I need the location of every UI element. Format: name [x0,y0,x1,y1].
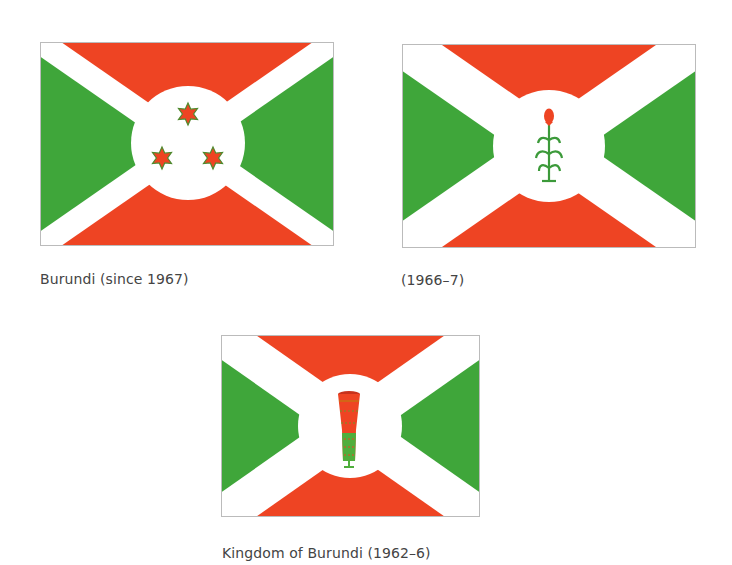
flag-burundi-1966 [402,44,696,248]
flag-caption: (1966–7) [401,271,464,289]
flag-kingdom-of-burundi-image [221,335,480,517]
flag-burundi-since-1967 [40,42,334,246]
flag-caption: Burundi (since 1967) [40,270,189,288]
flag-caption: Kingdom of Burundi (1962–6) [222,544,431,562]
flag-burundi-image [40,42,334,246]
flag-burundi-1966-image [402,44,696,248]
flag-kingdom-of-burundi [221,335,480,517]
